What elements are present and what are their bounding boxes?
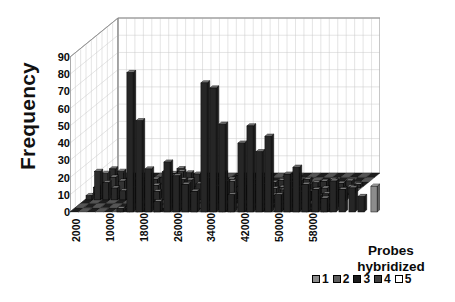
- legend-item[interactable]: 5: [395, 273, 412, 285]
- legend-swatch-icon: [374, 275, 382, 283]
- legend-label: 5: [405, 273, 412, 285]
- legend-swatch-icon: [395, 275, 403, 283]
- chart-legend: 12345: [312, 271, 455, 287]
- legend-label: 1: [322, 273, 329, 285]
- legend-label: 2: [343, 273, 350, 285]
- legend-swatch-icon: [333, 275, 341, 283]
- x-tick-label: 42000: [239, 213, 251, 242]
- legend-label: 4: [384, 273, 391, 285]
- x-tick-label: 50000: [273, 213, 285, 242]
- legend-swatch-icon: [312, 275, 320, 283]
- x-tick-label: 18000: [138, 213, 150, 242]
- legend-item[interactable]: 4: [374, 273, 391, 285]
- depth-caption-line1: Probes: [330, 243, 452, 259]
- x-tick-label: 2000: [70, 219, 82, 242]
- x-tick-label: 34000: [205, 213, 217, 242]
- legend-item[interactable]: 2: [333, 273, 350, 285]
- x-tick-label: 58000: [307, 213, 319, 242]
- legend-item[interactable]: 3: [353, 273, 370, 285]
- legend-label: 3: [363, 273, 370, 285]
- x-tick-label: 26000: [172, 213, 184, 242]
- legend-swatch-icon: [353, 275, 361, 283]
- x-tick-label: 10000: [104, 213, 116, 242]
- chart-figure: Frequency 9080706050403020100 2000100001…: [0, 0, 455, 302]
- legend-item[interactable]: 1: [312, 273, 329, 285]
